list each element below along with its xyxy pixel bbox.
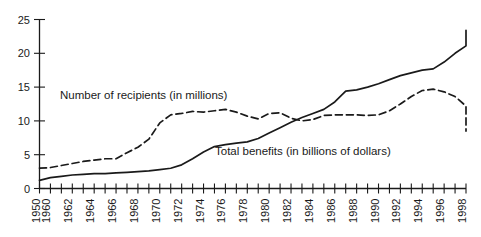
y-tick-label-5: 5 xyxy=(24,149,30,161)
x-tick-label: 1994 xyxy=(412,199,424,223)
x-axis-labels: 1950196019621964196619681970197219741976… xyxy=(30,198,469,222)
annotation-benefits: Total benefits (in billions of dollars) xyxy=(215,145,391,157)
x-tick-label: 1978 xyxy=(237,198,249,222)
x-tick-label: 1996 xyxy=(434,199,446,223)
x-tick-label: 1962 xyxy=(62,199,74,223)
line-chart: 25 20 15 10 5 0 195019601962196419661968… xyxy=(0,0,481,237)
x-tick-label: 1974 xyxy=(194,199,206,223)
x-tick-label: 1984 xyxy=(303,199,315,223)
x-tick-label: 1982 xyxy=(281,199,293,223)
x-tick-label: 1966 xyxy=(106,199,118,223)
y-tick-label-10: 10 xyxy=(18,115,30,127)
x-tick-label: 1986 xyxy=(325,199,337,223)
x-tick-label: 1972 xyxy=(172,199,184,223)
y-tick-label-0: 0 xyxy=(24,183,30,195)
x-tick-label: 1992 xyxy=(390,199,402,223)
x-tick-label: 1970 xyxy=(150,199,162,223)
y-tick-label-20: 20 xyxy=(18,47,30,59)
y-tick-label-25: 25 xyxy=(18,14,30,26)
x-tick-label: 1990 xyxy=(369,199,381,223)
x-tick-label: 1968 xyxy=(128,199,140,223)
y-tick-label-15: 15 xyxy=(18,81,30,93)
x-tick-label: 1960 xyxy=(40,199,52,223)
x-tick-label: 1988 xyxy=(347,199,359,223)
chart-container: 25 20 15 10 5 0 195019601962196419661968… xyxy=(0,0,481,237)
x-tick-label: 1980 xyxy=(259,199,271,223)
x-tick-label: 1976 xyxy=(215,199,227,223)
x-tick-label: 1964 xyxy=(84,199,96,223)
annotation-recipients: Number of recipients (in millions) xyxy=(60,89,228,101)
x-tick-label: 1998 xyxy=(456,199,468,223)
